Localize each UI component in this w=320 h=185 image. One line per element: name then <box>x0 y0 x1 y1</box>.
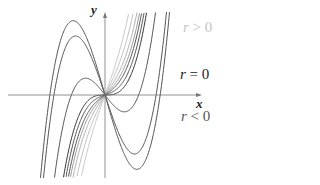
legend-r-negative: r < 0 <box>181 108 210 125</box>
legend-r-positive-val: 0 <box>205 19 213 35</box>
legend-r-negative-val: 0 <box>203 108 211 124</box>
legend-r-zero: r = 0 <box>180 66 209 83</box>
y-axis-label: y <box>91 2 97 18</box>
legend-r-zero-val: 0 <box>202 66 210 82</box>
y-axis-arrow-icon <box>103 12 107 18</box>
legend-r-zero-op: = <box>186 66 202 82</box>
legend-r-positive: r > 0 <box>183 19 212 36</box>
legend-r-positive-op: > <box>189 19 205 35</box>
legend-r-negative-op: < <box>187 108 203 124</box>
